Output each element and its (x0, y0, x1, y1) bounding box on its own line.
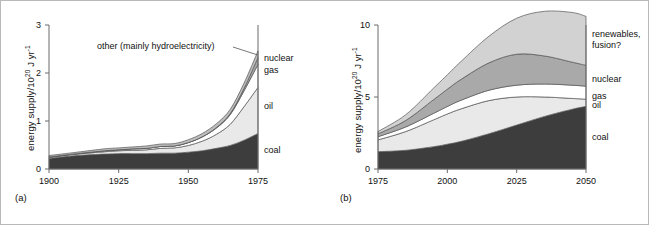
x-tick-label: 1900 (39, 176, 59, 186)
y-tick-label: 0 (352, 164, 370, 174)
series-label-renewables: renewables, (592, 29, 641, 40)
y-tick-label: 5 (352, 92, 370, 102)
y-tick-label: 3 (23, 20, 41, 30)
series-label-gas: gas (264, 65, 279, 76)
annotation-leader-line (233, 47, 257, 55)
x-tick-label: 1975 (248, 176, 268, 186)
y-tick-label: 1 (23, 116, 41, 126)
chart-panel-b: energy supply/1020 J yr-1 (b) 0510197520… (326, 1, 649, 225)
panel-tag-b: (b) (340, 192, 352, 203)
series-label-fusion: fusion? (592, 40, 621, 51)
plot-area-a (1, 1, 326, 225)
y-tick-label: 0 (23, 164, 41, 174)
x-tick-label: 2050 (576, 176, 596, 186)
series-label-coal: coal (264, 145, 281, 156)
series-label-oil: oil (592, 100, 601, 111)
y-tick-label: 2 (23, 68, 41, 78)
x-tick-label: 2000 (437, 176, 457, 186)
x-tick-label: 1950 (178, 176, 198, 186)
x-tick-label: 1975 (368, 176, 388, 186)
panel-tag-a: (a) (15, 192, 27, 203)
annotation-other-hydroelectricity: other (mainly hydroelectricity) (97, 41, 215, 51)
series-label-coal: coal (592, 132, 609, 143)
x-tick-label: 2025 (507, 176, 527, 186)
figure-container: energy supply/1020 J yr-1 (a) 0123190019… (0, 0, 649, 225)
series-label-oil: oil (264, 101, 273, 112)
x-tick-label: 1925 (109, 176, 129, 186)
chart-panel-a: energy supply/1020 J yr-1 (a) 0123190019… (1, 1, 326, 225)
series-label-nuclear: nuclear (264, 53, 294, 64)
series-label-nuclear: nuclear (592, 74, 622, 85)
y-tick-label: 10 (352, 20, 370, 30)
